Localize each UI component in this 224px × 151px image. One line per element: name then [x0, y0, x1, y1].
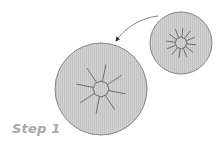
step-label: Step 1	[12, 121, 60, 136]
cell-nucleus	[175, 37, 187, 49]
small-cell	[150, 12, 212, 74]
large-cell	[55, 43, 147, 135]
cell-nucleus	[93, 81, 109, 97]
